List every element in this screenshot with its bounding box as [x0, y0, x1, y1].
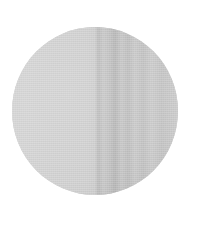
fabric-shading — [12, 27, 178, 195]
fabric-swatch — [12, 27, 178, 195]
